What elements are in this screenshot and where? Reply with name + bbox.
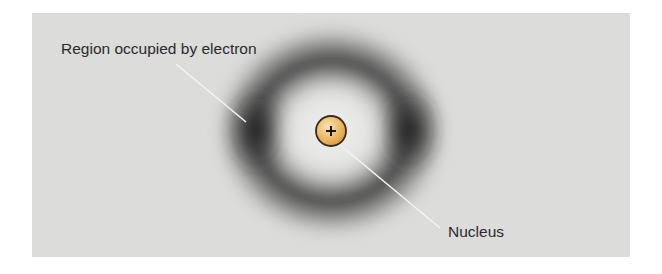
electron-region-label: Region occupied by electron (61, 40, 257, 58)
atom-diagram: Region occupied by electron Nucleus (0, 0, 662, 274)
nucleus-label: Nucleus (448, 223, 504, 241)
